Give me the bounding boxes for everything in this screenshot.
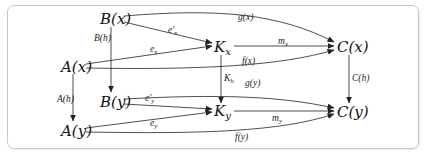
arrow-e-x: [86, 46, 212, 64]
node-K-y: Ky: [213, 102, 231, 121]
label-B-h: B(h): [94, 33, 111, 44]
label-e-x: ex: [150, 44, 158, 56]
commutative-diagram: B(x) A(x) Kx C(x) B(y) A(y) Ky C(y) g(x)…: [0, 0, 425, 155]
node-C-x: C(x): [337, 38, 369, 56]
arrow-g-x: [124, 13, 334, 42]
label-m-y: my: [272, 113, 283, 125]
node-K-x: Kx: [213, 38, 231, 57]
node-B-y: B(y): [99, 93, 131, 111]
node-A-y: A(y): [59, 122, 92, 140]
label-K-h: Kh: [223, 73, 234, 85]
label-A-h: A(h): [56, 94, 74, 105]
arrow-f-x: [86, 50, 334, 68]
label-e-y: ey: [150, 118, 158, 130]
label-C-h: C(h): [352, 73, 369, 84]
node-B-x: B(x): [99, 10, 131, 28]
label-g-y: g(y): [245, 78, 260, 89]
node-A-x: A(x): [59, 58, 92, 76]
arrow-eprime-y: [124, 104, 212, 109]
arrow-g-y: [124, 96, 334, 108]
label-eprime-x: e′x: [168, 25, 178, 37]
label-g-x: g(x): [238, 12, 253, 23]
label-f-y: f(y): [235, 132, 248, 143]
node-C-y: C(y): [337, 103, 369, 121]
label-f-x: f(x): [242, 56, 255, 67]
arrow-e-y: [86, 112, 212, 128]
label-eprime-y: e′y: [145, 93, 155, 105]
